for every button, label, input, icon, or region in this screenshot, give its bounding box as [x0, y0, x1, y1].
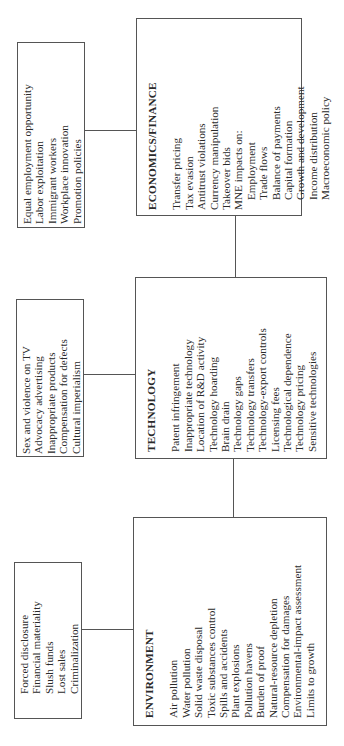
list-item: Advocacy advertising [32, 339, 44, 454]
list-item: Licensing fees [269, 328, 281, 452]
list-item: Labor exploitation [33, 84, 45, 224]
list-item: Financial materiality [30, 601, 42, 694]
list-item: Water pollution [180, 565, 192, 718]
list-item: Sensitive technologies [306, 328, 318, 452]
list-item: Location of R&D activity [194, 328, 206, 452]
list-item: MNE impacts on: [232, 82, 244, 210]
economics-title: ECONOMICS/FINANCE [146, 82, 158, 210]
list-item: Cultural imperialism [70, 339, 82, 454]
list-item: Compensation for damages [279, 565, 291, 718]
list-item: Compensation for defects [57, 339, 69, 454]
list-item: Limits to growth [304, 565, 316, 718]
environment-title: ENVIRONMENT [143, 565, 155, 718]
list-item: Currency manipulation [208, 82, 220, 210]
list-item: Technology hoarding [207, 328, 219, 452]
connector-economics-side [85, 130, 137, 131]
list-item: Technology pricing [293, 328, 305, 452]
list-item: Forced disclosure [18, 601, 30, 694]
connector-technology-environment [233, 459, 234, 517]
list-item: Tax evasion [183, 82, 195, 210]
connector-environment-side [82, 629, 134, 630]
list-item: Natural-resource depletion [267, 565, 279, 718]
economics-side-text: Equal employment opportunity Labor explo… [21, 84, 83, 224]
list-item: Inappropriate technology [182, 328, 194, 452]
list-item: Plant explosions [229, 565, 241, 718]
list-item: Inappropriate products [45, 339, 57, 454]
technology-side-text: Sex and violence on TV Advocacy advertis… [20, 339, 82, 454]
list-item: Workplace innovation [58, 84, 70, 224]
technology-text: TECHNOLOGY Patent infringement Inappropr… [145, 328, 318, 452]
connector-economics-technology [235, 216, 236, 277]
list-item: Balance of payments [270, 82, 282, 210]
list-item: Antitrust violations [195, 82, 207, 210]
list-item: Technological dependence [281, 328, 293, 452]
connector-technology-side [84, 374, 136, 375]
list-item: Trade flows [257, 82, 269, 210]
list-item: Technology gaps [231, 328, 243, 452]
list-item: Immigrant workers [46, 84, 58, 224]
list-item: Pollution havens [242, 565, 254, 718]
list-item: Solid waste disposal [192, 565, 204, 718]
list-item: Transfer pricing [170, 82, 182, 210]
list-item: Sex and violence on TV [20, 339, 32, 454]
list-item: Employment [245, 82, 257, 210]
list-item: Environmental-impact assessment [291, 565, 303, 718]
environment-text: ENVIRONMENT Air pollution Water pollutio… [143, 565, 316, 718]
list-item: Takeover bids [220, 82, 232, 210]
list-item: Equal employment opportunity [21, 84, 33, 224]
list-item: Technology-export controls [256, 328, 268, 452]
list-item: Burden of proof [254, 565, 266, 718]
list-item: Patent infringement [169, 328, 181, 452]
list-item: Lost sales [55, 601, 67, 694]
list-item: Toxic substances control [205, 565, 217, 718]
list-item: Slush funds [43, 601, 55, 694]
technology-title: TECHNOLOGY [145, 328, 157, 452]
list-item: Criminalization [68, 601, 80, 694]
list-item: Promotion policies [71, 84, 83, 224]
list-item: Growth and development [294, 82, 306, 210]
list-item: Brain drain [219, 328, 231, 452]
list-item: Air pollution [167, 565, 179, 718]
economics-text: ECONOMICS/FINANCE Transfer pricing Tax e… [146, 82, 332, 210]
environment-side-text: Forced disclosure Financial materiality … [18, 601, 80, 694]
list-item: Income distribution [307, 82, 319, 210]
list-item: Spills and accidents [217, 565, 229, 718]
list-item: Macroeconomic policy [319, 82, 331, 210]
list-item: Capital formation [282, 82, 294, 210]
list-item: Technology transfers [244, 328, 256, 452]
